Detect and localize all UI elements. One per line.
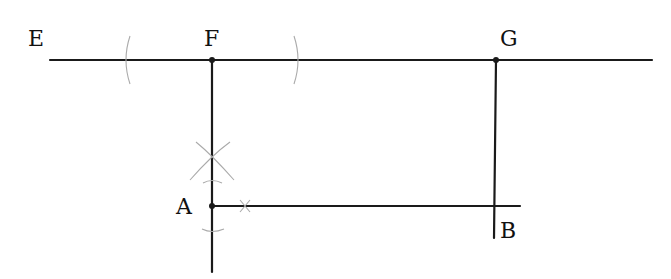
label-B: B: [500, 218, 516, 243]
construction-diagram: E F G A B: [0, 0, 671, 279]
label-E: E: [28, 26, 44, 51]
point-A: [209, 203, 215, 209]
point-G: [493, 57, 499, 63]
perpendicular-from-G: [494, 60, 496, 238]
arc-cross-above-A-2: [190, 142, 230, 180]
label-A: A: [175, 194, 193, 219]
label-F: F: [204, 26, 219, 51]
label-G: G: [500, 26, 518, 51]
point-F: [209, 57, 215, 63]
arc-cross-above-A-1: [196, 142, 234, 180]
